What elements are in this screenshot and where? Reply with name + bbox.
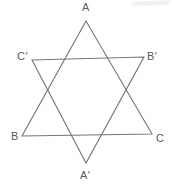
vertex-label-b: B <box>11 130 19 142</box>
vertex-label-c: C <box>156 132 164 144</box>
vertex-label-b-prime: B′ <box>147 50 157 62</box>
triangle-a1b1c1-downward <box>32 57 144 163</box>
vertex-label-a: A <box>82 1 90 13</box>
hexagram-star-drawing <box>0 0 172 193</box>
vertex-label-c-prime: C′ <box>17 50 28 62</box>
vertex-label-a-prime: A′ <box>80 169 90 181</box>
figure-canvas: A C′ B′ B C A′ <box>0 0 172 193</box>
